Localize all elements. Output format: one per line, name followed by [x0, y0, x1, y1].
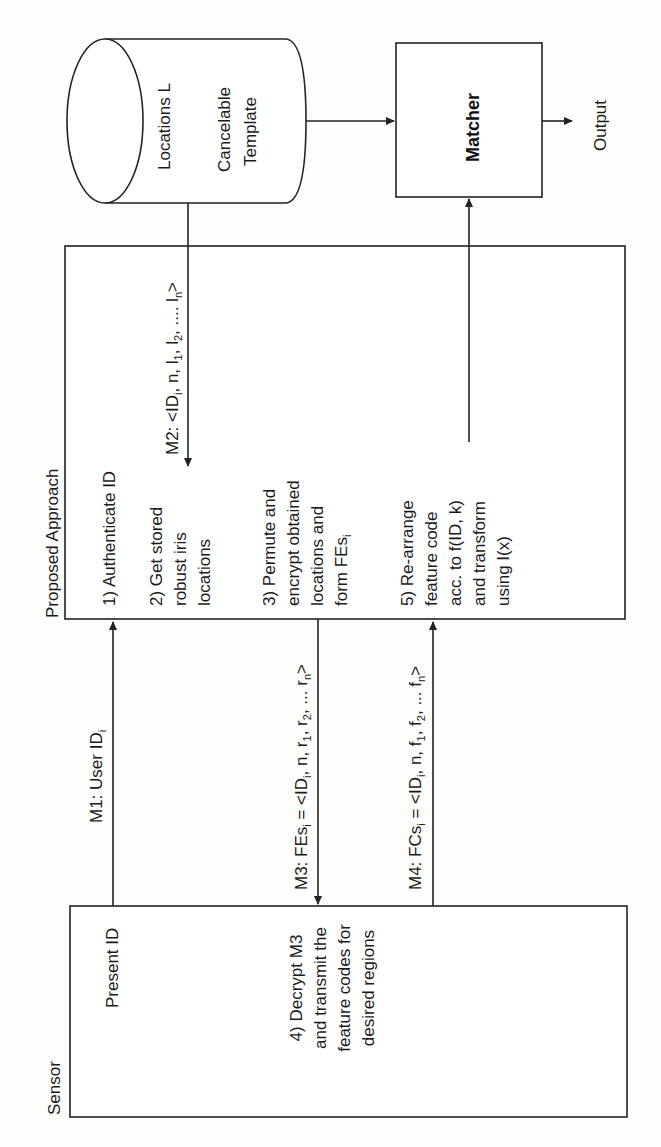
step1-text: 1) Authenticate ID	[100, 471, 119, 606]
step5-line3: acc. to f(ID, k)	[446, 500, 465, 606]
step5-line1: 5) Re-arrange	[398, 500, 417, 606]
step5-line4: and transform	[470, 501, 489, 606]
step4-line4: desired regions	[359, 930, 378, 1046]
iris-protocol-diagram: Locations L Cancelable Template Matcher …	[0, 0, 661, 1147]
step4-line1: 4) Decrypt M3	[287, 935, 306, 1042]
m3-label: M3: FEsi = <IDi, n, r1, r2, ... rn>	[292, 664, 313, 890]
sensor-title: Sensor	[45, 1061, 64, 1115]
step4-line2: and transmit the	[311, 927, 330, 1049]
step3-line2: encrypt obtained	[284, 480, 303, 606]
matcher-label: Matcher	[463, 93, 483, 162]
db-label-template: Template	[241, 97, 260, 166]
step4-line3: feature codes for	[335, 924, 354, 1052]
step2-line3: locations	[195, 539, 214, 606]
step3-line4: form FEsi	[332, 535, 353, 606]
step5-line5: using I(x)	[494, 536, 513, 606]
proposed-approach-title: Proposed Approach	[43, 469, 62, 618]
m4-label: M4: FCsi = <IDi, n, f1, f2, ... fn>	[406, 666, 427, 890]
db-label-locations: Locations L	[155, 83, 174, 170]
step2-line2: robust iris	[171, 532, 190, 606]
database-cylinder	[67, 39, 306, 203]
m2-label: M2: <IDi, n, l1, l2, .... ln>	[163, 282, 184, 455]
step3-line1: 3) Permute and	[260, 489, 279, 606]
m1-label: M1: User IDi	[87, 730, 108, 823]
step5-line2: feature code	[422, 511, 441, 606]
db-label-cancelable: Cancelable	[215, 87, 234, 172]
step2-line1: 2) Get stored	[147, 507, 166, 606]
step3-line3: locations and	[308, 506, 327, 606]
diagram-canvas: Locations L Cancelable Template Matcher …	[0, 0, 661, 1147]
output-label: Output	[591, 100, 610, 151]
sensor-present-id: Present ID	[103, 928, 122, 1008]
